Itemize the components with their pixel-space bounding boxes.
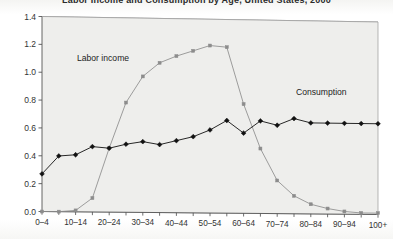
x-tick-label: 80–84 [299, 220, 322, 229]
data-point-marker [41, 210, 44, 213]
y-tick-label: 0.2 [24, 179, 36, 189]
data-point-marker [242, 103, 245, 106]
data-point-marker [360, 211, 363, 214]
data-point-marker [326, 207, 329, 210]
x-tick-label: 0–4 [35, 218, 49, 227]
data-point-marker [309, 203, 312, 206]
y-tick-label: 1.0 [24, 67, 36, 77]
data-point-marker [293, 194, 296, 197]
plot-area: 0.00.20.40.60.81.01.21.4 0–410–1420–2430… [0, 0, 393, 239]
data-point-marker [377, 212, 380, 215]
series-annotation-labor-income: Labor income [77, 53, 129, 63]
data-point-marker [74, 209, 77, 212]
x-tick-label: 10–14 [64, 218, 87, 227]
x-tick-label: 40–44 [165, 219, 188, 228]
y-tick-label: 1.4 [24, 12, 36, 22]
x-tick-label: 70–74 [266, 220, 289, 229]
y-tick-label: 1.2 [24, 39, 36, 49]
data-point-marker [225, 46, 228, 49]
y-tick-label: 0.4 [24, 151, 36, 161]
y-axis-ticks: 0.00.20.40.60.81.01.21.4 [24, 12, 42, 217]
chart-figure: Labor Income and Consumption by Age, Uni… [0, 0, 393, 239]
data-point-marker [141, 75, 144, 78]
x-tick-label: 90–94 [333, 220, 356, 229]
x-tick-label: 50–54 [199, 219, 222, 228]
data-point-marker [125, 101, 128, 104]
data-point-marker [192, 49, 195, 52]
y-tick-label: 0.6 [24, 123, 36, 133]
x-tick-label: 30–34 [131, 218, 154, 227]
data-point-marker [57, 210, 60, 213]
chart-canvas: 0.00.20.40.60.81.01.21.4 0–410–1420–2430… [0, 0, 393, 239]
y-tick-label: 0.8 [24, 95, 36, 105]
data-point-marker [343, 210, 346, 213]
y-tick-label: 0.0 [24, 207, 36, 217]
data-point-marker [276, 179, 279, 182]
data-point-marker [158, 61, 161, 64]
x-tick-label: 20–24 [98, 218, 121, 227]
series-annotation-consumption: Consumption [296, 87, 347, 97]
data-point-marker [209, 44, 212, 47]
x-tick-label: 100+ [369, 221, 388, 230]
x-tick-label: 60–64 [232, 219, 255, 228]
data-point-marker [259, 147, 262, 150]
data-point-marker [91, 197, 94, 200]
data-point-marker [175, 55, 178, 58]
